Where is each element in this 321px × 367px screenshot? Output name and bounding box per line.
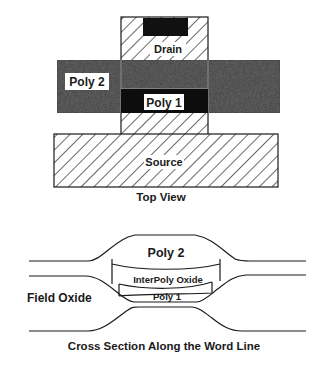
- drain-contact: [143, 18, 188, 36]
- drain-label: Drain: [154, 43, 182, 55]
- poly2-label: Poly 2: [69, 75, 105, 89]
- memory-cell-diagram: Drain Poly 2 Poly 1 Source Top View: [0, 0, 321, 367]
- xs-poly2-label: Poly 2: [148, 246, 185, 260]
- top-view-caption: Top View: [136, 191, 185, 203]
- poly1-label: Poly 1: [146, 96, 182, 110]
- cross-section-caption: Cross Section Along the Word Line: [68, 340, 260, 352]
- xs-interpoly-label: InterPoly Oxide: [133, 274, 203, 285]
- cross-section-labels: Poly 2 InterPoly Oxide Poly 1 Field Oxid…: [27, 246, 260, 352]
- source-label: Source: [145, 156, 182, 168]
- top-view: Drain Poly 2 Poly 1 Source Top View: [54, 17, 280, 203]
- xs-poly1-label: Poly 1: [153, 291, 182, 302]
- field-oxide-label: Field Oxide: [27, 291, 92, 305]
- substrate-surface: [29, 307, 306, 331]
